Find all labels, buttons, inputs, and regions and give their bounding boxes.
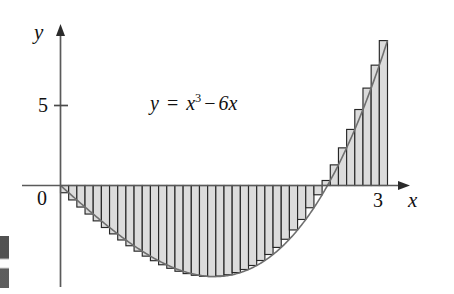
riemann-rect — [159, 186, 167, 265]
x-axis-label: x — [408, 190, 417, 211]
riemann-rect — [265, 186, 273, 255]
riemann-rect — [183, 186, 191, 274]
riemann-rect — [338, 148, 346, 186]
riemann-rect — [281, 186, 289, 240]
riemann-rect — [224, 186, 232, 275]
riemann-rect — [126, 186, 134, 246]
riemann-rect — [69, 186, 77, 200]
riemann-rect — [314, 186, 322, 195]
riemann-rect — [289, 186, 297, 230]
riemann-rect — [110, 186, 118, 234]
figure-canvas — [0, 0, 454, 294]
riemann-rect — [273, 186, 281, 248]
riemann-rect — [175, 186, 183, 272]
y-axis — [54, 24, 68, 287]
riemann-rect — [240, 186, 248, 270]
equation-base: x — [186, 92, 195, 114]
riemann-sum-figure: y x 5 0 3 y = x3−6x — [0, 0, 454, 294]
y-axis-label: y — [34, 22, 43, 43]
page-edge-artifact — [0, 236, 9, 288]
riemann-rect — [142, 186, 150, 257]
riemann-rect — [118, 186, 126, 240]
riemann-rect — [232, 186, 240, 273]
riemann-rect — [306, 186, 314, 208]
riemann-rect — [167, 186, 175, 269]
riemann-rect — [363, 88, 371, 185]
riemann-rect — [298, 186, 306, 220]
riemann-rect — [208, 186, 216, 277]
riemann-rect — [134, 186, 142, 252]
riemann-rect — [257, 186, 265, 261]
equation-operator: − — [201, 92, 218, 114]
equation-annotation: y = x3−6x — [150, 92, 237, 113]
equation-equals: = — [164, 92, 181, 114]
equation-term: 6x — [219, 92, 238, 114]
origin-label: 0 — [37, 188, 47, 208]
x-tick-label-3: 3 — [373, 190, 383, 210]
riemann-rect — [216, 186, 224, 277]
riemann-rect — [249, 186, 257, 266]
riemann-rect — [191, 186, 199, 276]
riemann-rect — [150, 186, 158, 261]
riemann-rect — [199, 186, 207, 277]
y-axis-arrowhead — [56, 24, 65, 36]
riemann-rectangles — [61, 41, 388, 277]
y-tick-label-5: 5 — [38, 95, 48, 115]
equation-lhs: y — [150, 92, 159, 114]
